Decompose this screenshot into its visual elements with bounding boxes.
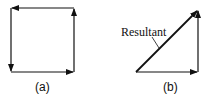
panel-b: Resultant (b): [121, 11, 198, 94]
caption-a: (a): [35, 80, 50, 94]
panel-a: (a): [11, 8, 74, 94]
caption-b: (b): [163, 80, 178, 94]
resultant-label: Resultant: [121, 25, 167, 39]
resultant-vector: [136, 11, 197, 72]
vector-diagram: (a) Resultant (b): [0, 0, 207, 97]
